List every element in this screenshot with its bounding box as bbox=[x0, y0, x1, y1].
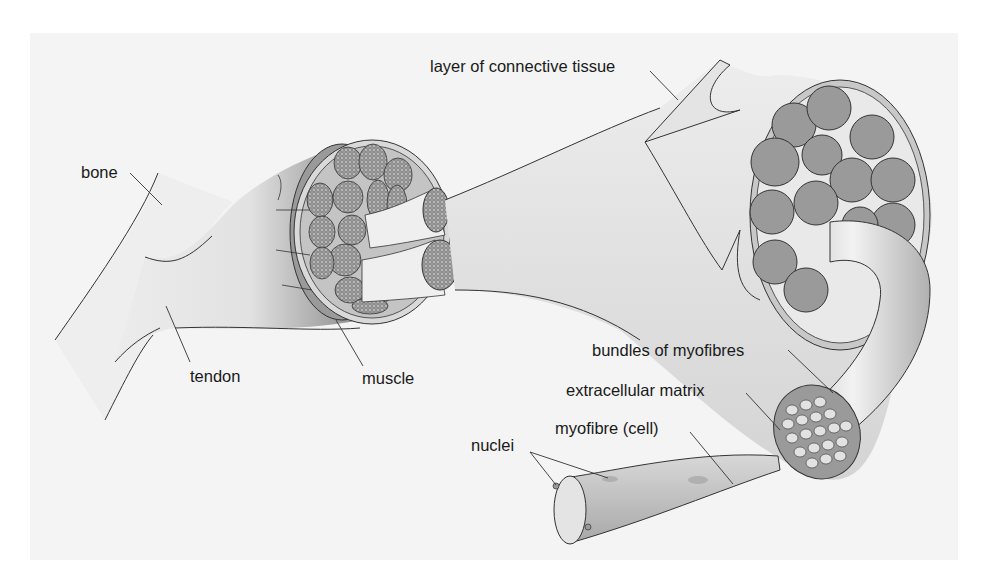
myofibre-cell bbox=[553, 455, 780, 544]
label-bundles-of-myofibres: bundles of myofibres bbox=[592, 342, 744, 359]
label-bone: bone bbox=[81, 164, 118, 181]
label-nuclei: nuclei bbox=[471, 437, 514, 454]
label-connective-tissue: layer of connective tissue bbox=[430, 58, 615, 75]
label-tendon: tendon bbox=[190, 368, 240, 385]
label-muscle: muscle bbox=[362, 370, 414, 387]
muscle-structure-illustration bbox=[0, 0, 991, 584]
nucleus bbox=[688, 476, 708, 484]
label-myofibre-cell: myofibre (cell) bbox=[555, 420, 659, 437]
label-extracellular-matrix: extracellular matrix bbox=[566, 382, 704, 399]
nucleus bbox=[585, 524, 591, 530]
nucleus bbox=[553, 483, 559, 489]
